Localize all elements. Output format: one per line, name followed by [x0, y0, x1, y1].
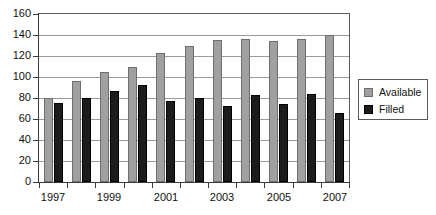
- legend-label-available: Available: [379, 87, 421, 98]
- y-axis-tick-label: 0: [1, 176, 31, 187]
- x-axis-tick-mark: [264, 183, 265, 188]
- legend-item-filled: Filled: [364, 102, 427, 117]
- bar-chart: 020406080100120140160 199719992001200320…: [0, 0, 436, 215]
- y-axis-tick-label: 160: [1, 8, 31, 19]
- bar-filled-2001: [166, 101, 175, 182]
- y-axis-tick-mark: [33, 161, 38, 162]
- y-axis-tick-mark: [33, 56, 38, 57]
- y-axis-tick-label: 60: [1, 113, 31, 124]
- y-axis-tick-label: 120: [1, 50, 31, 61]
- bar-filled-2006: [307, 94, 316, 182]
- y-axis-tick-label: 100: [1, 71, 31, 82]
- bar-available-2005: [269, 41, 278, 182]
- y-axis-tick-label: 40: [1, 134, 31, 145]
- bar-available-2006: [297, 39, 306, 182]
- bar-available-2000: [128, 67, 137, 183]
- available-swatch-icon: [364, 88, 373, 97]
- x-axis-tick-mark: [321, 183, 322, 188]
- y-axis-tick-mark: [33, 182, 38, 183]
- x-axis-tick-mark: [208, 183, 209, 188]
- bar-filled-1998: [82, 98, 91, 182]
- bar-filled-2007: [335, 113, 344, 182]
- x-axis-tick-label: 2003: [210, 191, 234, 203]
- x-axis-tick-mark: [236, 183, 237, 188]
- legend-item-available: Available: [364, 85, 427, 100]
- bar-available-2003: [213, 40, 222, 182]
- y-axis-tick-mark: [33, 77, 38, 78]
- y-axis-tick-mark: [33, 14, 38, 15]
- bar-available-2002: [185, 46, 194, 183]
- x-axis-line: [38, 182, 350, 183]
- y-axis-labels: 020406080100120140160: [0, 0, 31, 215]
- x-axis-tick-label: 2001: [154, 191, 178, 203]
- bar-available-2007: [325, 35, 334, 182]
- y-axis-tick-mark: [33, 119, 38, 120]
- x-axis-tick-mark: [67, 183, 68, 188]
- bar-filled-1997: [54, 103, 63, 182]
- bar-filled-2002: [195, 98, 204, 182]
- x-axis-tick-mark: [293, 183, 294, 188]
- filled-swatch-icon: [364, 105, 373, 114]
- bar-available-1998: [72, 81, 81, 182]
- y-axis-tick-label: 80: [1, 92, 31, 103]
- bar-filled-1999: [110, 91, 119, 182]
- x-axis-tick-label: 1997: [41, 191, 65, 203]
- x-axis-tick-mark: [180, 183, 181, 188]
- bar-available-2001: [156, 53, 165, 182]
- chart-legend: Available Filled: [358, 79, 428, 120]
- y-axis-tick-label: 20: [1, 155, 31, 166]
- bars-container: [39, 14, 349, 182]
- x-axis-tick-mark: [152, 183, 153, 188]
- x-axis-tick-label: 2007: [323, 191, 347, 203]
- x-axis-tick-mark: [349, 183, 350, 188]
- bar-filled-2003: [223, 106, 232, 182]
- x-axis-tick-label: 1999: [97, 191, 121, 203]
- bar-available-1999: [100, 72, 109, 182]
- bar-filled-2004: [251, 95, 260, 182]
- x-axis-tick-mark: [95, 183, 96, 188]
- legend-label-filled: Filled: [379, 104, 404, 115]
- bar-filled-2005: [279, 104, 288, 182]
- bar-available-2004: [241, 39, 250, 182]
- x-axis-tick-label: 2005: [267, 191, 291, 203]
- y-axis-tick-label: 140: [1, 29, 31, 40]
- x-axis-tick-mark: [39, 183, 40, 188]
- bar-available-1997: [44, 98, 53, 182]
- y-axis-tick-mark: [33, 98, 38, 99]
- y-axis-tick-mark: [33, 35, 38, 36]
- x-axis-tick-mark: [124, 183, 125, 188]
- y-axis-tick-mark: [33, 140, 38, 141]
- bar-filled-2000: [138, 85, 147, 182]
